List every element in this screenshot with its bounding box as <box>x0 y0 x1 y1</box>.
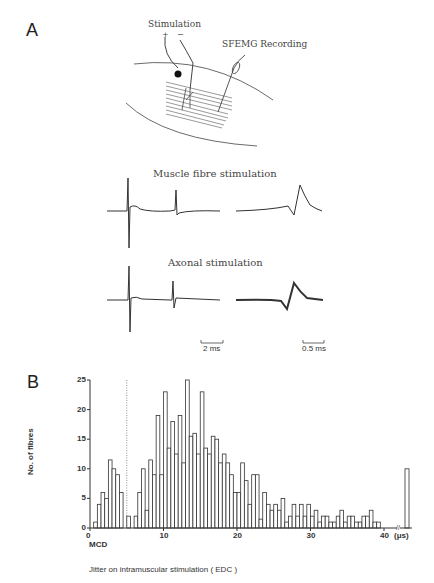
y-tick-label: 20 <box>74 405 86 414</box>
scale-2ms: 2 ms <box>203 344 220 353</box>
histogram-bar <box>241 463 245 528</box>
figure-canvas: // <box>0 0 434 583</box>
plus-label: + <box>162 30 169 39</box>
histogram-bar <box>314 510 318 528</box>
histogram-bar <box>112 469 116 528</box>
histogram-bar <box>270 510 274 528</box>
muscle-fibre-title: Muscle fibre stimulation <box>153 168 277 179</box>
histogram-bar <box>285 522 289 528</box>
x-tick-label: 40 <box>380 531 389 540</box>
histogram-bar <box>237 492 241 528</box>
histogram-bar <box>329 522 333 528</box>
histogram-bar <box>255 475 259 528</box>
y-tick-label: 0 <box>74 523 86 532</box>
histogram-bar <box>292 504 296 528</box>
histogram-bar <box>167 448 171 528</box>
histogram-bar <box>369 510 373 528</box>
histogram-bar <box>149 460 153 528</box>
histogram-bar <box>127 516 131 528</box>
histogram-bar <box>311 516 315 528</box>
histogram-bar <box>373 522 377 528</box>
histogram-bar <box>226 463 230 528</box>
histogram-bar <box>197 454 201 528</box>
histogram-bar <box>233 492 237 528</box>
histogram-bar <box>178 416 182 528</box>
histogram-bar <box>134 516 138 528</box>
histogram-bar <box>208 454 212 528</box>
histogram-bar <box>351 516 355 528</box>
histogram-bar <box>189 436 193 528</box>
histogram-bar <box>362 516 366 528</box>
histogram-bar <box>299 504 303 528</box>
axonal-traces <box>107 266 323 332</box>
histogram-bar <box>377 522 381 528</box>
histogram-bar <box>200 392 204 528</box>
histogram-bar <box>266 504 270 528</box>
scale-05ms: 0.5 ms <box>302 344 326 353</box>
mcd-label: MCD <box>89 540 107 549</box>
histogram-bar <box>219 463 223 528</box>
histogram-bar <box>164 392 168 528</box>
histogram-bar <box>145 510 149 528</box>
y-tick-label: 5 <box>74 493 86 502</box>
histogram-bar <box>193 433 197 528</box>
histogram-bar <box>274 504 278 528</box>
muscle-diagram <box>126 37 273 146</box>
histogram-bar <box>182 463 186 528</box>
y-axis-label: No. of fibres <box>26 428 35 475</box>
y-tick-label: 15 <box>74 434 86 443</box>
histogram-bar <box>230 475 234 528</box>
histogram-bar <box>108 460 112 528</box>
histogram-bar <box>307 504 311 528</box>
histogram-bar <box>160 475 164 528</box>
histogram-bar <box>288 516 292 528</box>
histogram-bar <box>277 510 281 528</box>
histogram-bar <box>318 522 322 528</box>
histogram-bar <box>215 439 219 528</box>
histogram-bar <box>222 454 226 528</box>
histogram-bar <box>156 416 160 528</box>
histogram-bar <box>204 448 208 528</box>
histogram-bar <box>263 492 267 528</box>
histogram-bar <box>101 492 105 528</box>
histogram-bar <box>138 492 142 528</box>
x-unit-label: (μs) <box>394 531 409 540</box>
histogram-bar <box>333 522 337 528</box>
overflow-bar <box>405 469 409 528</box>
axis-break-icon: // <box>396 524 400 531</box>
histogram-bar <box>358 522 362 528</box>
histogram-bar <box>252 475 256 528</box>
histogram-bar <box>141 469 145 528</box>
y-tick-label: 25 <box>74 375 86 384</box>
stimulation-label: Stimulation <box>148 19 201 29</box>
histogram-bar <box>97 504 101 528</box>
histogram-bar <box>303 516 307 528</box>
histogram-bar <box>325 516 329 528</box>
axonal-title: Axonal stimulation <box>168 257 263 268</box>
panel-b-label: B <box>27 372 39 393</box>
histogram-bar <box>355 522 359 528</box>
scale-bars <box>201 340 324 343</box>
histogram-bar <box>366 516 370 528</box>
x-tick-label: 20 <box>233 531 242 540</box>
histogram-bar <box>244 481 248 528</box>
x-tick-label: 10 <box>160 531 169 540</box>
histogram-bar <box>347 516 351 528</box>
muscle-fibre-traces <box>107 178 322 248</box>
histogram-bar <box>186 380 190 528</box>
histogram-bar <box>152 475 156 528</box>
histogram-bar <box>171 421 175 528</box>
histogram-bar <box>211 436 215 528</box>
histogram: // <box>87 380 412 531</box>
x-tick-label: 0 <box>86 531 90 540</box>
histogram-bar <box>281 498 285 528</box>
recording-label: SFEMG Recording <box>222 39 307 49</box>
histogram-bar <box>105 498 109 528</box>
x-tick-label: 30 <box>307 531 316 540</box>
histogram-bar <box>259 519 263 528</box>
histogram-bar <box>119 492 123 528</box>
histogram-bar <box>248 504 252 528</box>
x-axis-label: Jitter on intramuscular stimulation ( ED… <box>89 565 237 574</box>
histogram-bar <box>336 516 340 528</box>
histogram-bar <box>296 516 300 528</box>
